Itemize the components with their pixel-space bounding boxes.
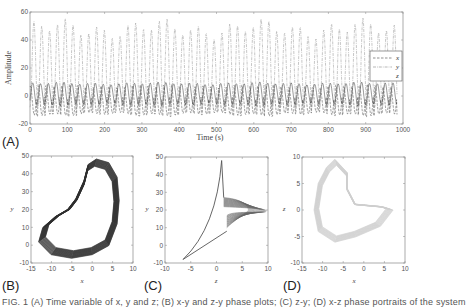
y-axis-label-d: z: [282, 205, 286, 213]
panel-label-b: (B): [2, 278, 19, 293]
y-tick-label: 20: [21, 64, 29, 71]
y-tick-label: 50: [156, 153, 164, 160]
x-tick-label: -10: [47, 265, 57, 272]
y-tick-label: 60: [21, 8, 29, 15]
y-tick-label: 10: [156, 224, 164, 231]
y-tick-label: 10: [293, 153, 301, 160]
time-series-chart: 01002003004005006007008009001000-2002040…: [2, 8, 411, 149]
phase-plot-z-y: -10-50510-1001020304050 z y (C): [144, 153, 272, 293]
y-tick-label: 30: [156, 189, 164, 196]
x-tick-label: -5: [188, 265, 194, 272]
y-tick-label: -5: [294, 233, 300, 240]
y-tick-label: 0: [296, 206, 300, 213]
x-tick-label: 0: [215, 265, 219, 272]
x-axis-label-a: Time (s): [196, 133, 223, 142]
y-tick-label: -10: [154, 259, 164, 266]
y-tick-label: 40: [21, 36, 29, 43]
x-tick-label: 400: [174, 126, 185, 133]
x-tick-label: 0: [362, 265, 366, 272]
y-tick-label: 5: [296, 180, 300, 187]
x-tick-label: 5: [383, 265, 387, 272]
legend: x y z: [370, 51, 402, 81]
x-tick-label: 10: [264, 265, 272, 272]
y-tick-label: 0: [24, 92, 28, 99]
y-tick-label: 30: [22, 188, 30, 195]
y-tick-label: 10: [22, 224, 30, 231]
y-axis-label-c: y: [144, 205, 149, 213]
x-tick-label: 200: [99, 126, 110, 133]
x-tick-label: 1000: [396, 126, 411, 133]
x-tick-label: -10: [318, 265, 328, 272]
figure-caption: FIG. 1 (A) Time variable of x, y and z; …: [2, 297, 466, 307]
x-tick-label: 500: [211, 126, 222, 133]
y-tick-label: 40: [22, 170, 30, 177]
x-axis-label-d: x: [351, 277, 356, 285]
y-tick-label: -10: [291, 259, 301, 266]
x-tick-label: 5: [111, 265, 115, 272]
y-tick-label: 20: [22, 206, 30, 213]
y-tick-label: -10: [20, 259, 30, 266]
x-axis-label-b: x: [79, 277, 84, 285]
x-tick-label: 0: [28, 126, 32, 133]
panel-label-d: (D): [283, 278, 301, 293]
x-tick-label: -5: [340, 265, 346, 272]
plot-area-a: [30, 12, 403, 124]
x-tick-label: 600: [248, 126, 259, 133]
x-tick-label: 700: [286, 126, 297, 133]
x-tick-label: 800: [323, 126, 334, 133]
x-tick-label: 300: [136, 126, 147, 133]
y-axis-label-b: y: [9, 205, 14, 213]
y-tick-label: 40: [156, 171, 164, 178]
y-tick-label: 0: [25, 241, 29, 248]
y-tick-label: 20: [156, 206, 164, 213]
panel-label-c: (C): [144, 278, 162, 293]
x-tick-label: 0: [90, 265, 94, 272]
x-axis-label-c: z: [214, 277, 218, 285]
x-tick-label: 5: [240, 265, 244, 272]
y-tick-label: -20: [19, 120, 29, 127]
x-tick-label: 10: [401, 265, 409, 272]
x-tick-label: 900: [360, 126, 371, 133]
panel-label-a: (A): [2, 134, 19, 149]
x-tick-label: 10: [129, 265, 137, 272]
legend-label-z: z: [395, 72, 399, 80]
phase-plot-x-y: -15-10-50510-1001020304050 x y (B): [2, 152, 137, 293]
x-tick-label: -5: [69, 265, 75, 272]
y-tick-label: 50: [22, 152, 30, 159]
x-tick-label: 100: [62, 126, 73, 133]
y-axis-label-a: Amplitude: [4, 50, 13, 85]
phase-plot-x-z: -15-10-50510-10-50510 x z (D): [282, 153, 409, 293]
y-tick-label: 0: [159, 242, 163, 249]
